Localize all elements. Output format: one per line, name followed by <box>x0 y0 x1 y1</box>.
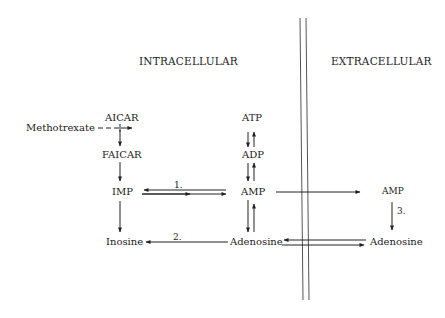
node-faicar: FAICAR <box>102 150 142 160</box>
intracellular-header: INTRACELLULAR <box>139 56 238 67</box>
extracellular-header: EXTRACELLULAR <box>331 56 432 67</box>
node-amp-intracellular: AMP <box>241 187 265 197</box>
step-2-label: 2. <box>173 233 182 242</box>
cell-membrane <box>300 18 309 300</box>
node-atp: ATP <box>242 113 262 123</box>
node-amp-extracellular: AMP <box>382 187 404 196</box>
methotrexate-inhibition-arrow <box>98 124 132 132</box>
node-inosine: Inosine <box>106 237 143 247</box>
step-3-label: 3. <box>397 207 406 216</box>
node-adenosine-intracellular: Adenosine <box>230 237 283 247</box>
pathway-diagram <box>0 0 445 318</box>
node-methotrexate: Methotrexate <box>26 123 95 133</box>
step-1-label: 1. <box>174 181 183 190</box>
node-adenosine-extracellular: Adenosine <box>370 237 423 247</box>
node-imp: IMP <box>112 187 133 197</box>
node-adp: ADP <box>242 150 264 160</box>
node-aicar: AICAR <box>105 113 139 123</box>
